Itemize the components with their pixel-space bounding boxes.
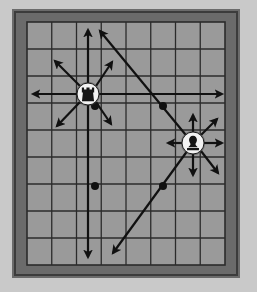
board-diagram: [0, 0, 257, 292]
diagram-canvas: [0, 0, 257, 292]
dot-marker-b: [91, 182, 99, 190]
bishop-piece[interactable]: [181, 131, 205, 155]
dot-marker-d: [159, 182, 167, 190]
rook-piece[interactable]: [76, 82, 100, 106]
rook-icon: [82, 88, 94, 102]
dot-marker-c: [159, 102, 167, 110]
